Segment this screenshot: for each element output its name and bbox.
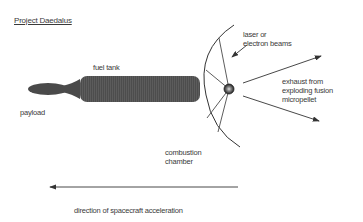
micropellet — [224, 84, 234, 94]
exhaust-label-line1: exhaust from — [282, 77, 323, 86]
beams-label-line2: electron beams — [243, 39, 291, 48]
exhaust-label-line3: micropellet — [282, 95, 316, 104]
payload-neck — [62, 79, 80, 99]
daedalus-diagram — [0, 0, 363, 222]
payload-label: payload — [20, 108, 45, 117]
exhaust-label-line2: exploding fusion — [282, 86, 333, 95]
combustion-chamber-arc — [204, 25, 240, 147]
chamber-label-line1: combustion — [165, 148, 201, 157]
beams-label-line1: laser or — [243, 30, 266, 39]
fuel-tank-shape — [80, 76, 200, 102]
direction-label: direction of spacecraft acceleration — [74, 206, 183, 215]
diagram-title: Project Daedalus — [14, 16, 72, 25]
chamber-label-line2: chamber — [165, 157, 193, 166]
fuel-tank-label: fuel tank — [93, 63, 120, 72]
